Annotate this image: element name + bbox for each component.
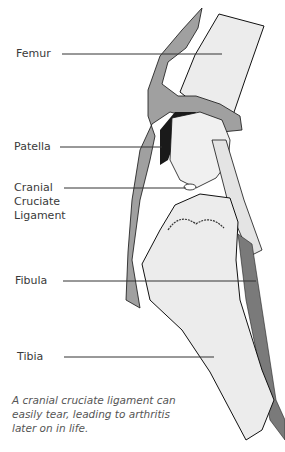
label-cranial-cruciate-ligament: Cranial Cruciate Ligament bbox=[14, 181, 66, 223]
label-patella: Patella bbox=[14, 140, 51, 154]
label-femur: Femur bbox=[16, 47, 51, 61]
cruciate-ligament-shape bbox=[184, 184, 196, 190]
label-ccl-line-2: Cruciate bbox=[14, 195, 66, 209]
diagram-caption: A cranial cruciate ligament can easily t… bbox=[12, 393, 182, 435]
label-ccl-line-3: Ligament bbox=[14, 209, 66, 223]
stifle-joint-illustration bbox=[0, 0, 285, 452]
label-fibula: Fibula bbox=[15, 274, 47, 288]
label-ccl-line-1: Cranial bbox=[14, 181, 66, 195]
label-tibia: Tibia bbox=[17, 350, 43, 364]
